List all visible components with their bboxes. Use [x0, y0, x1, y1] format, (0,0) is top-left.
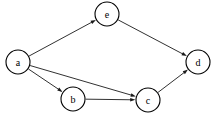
node-b[interactable]: b: [61, 87, 85, 111]
edge-a-to-e[interactable]: [29, 20, 96, 56]
edge-a-to-b-line: [28, 69, 59, 90]
edge-b-to-c-line: [86, 99, 132, 100]
edge-c-to-d-line: [158, 72, 185, 92]
edge-c-to-d[interactable]: [158, 70, 188, 93]
node-d[interactable]: d: [186, 50, 210, 74]
graph-canvas: a b c d e: [0, 0, 216, 124]
node-e[interactable]: e: [95, 2, 119, 26]
edge-b-to-c-arrowhead: [130, 98, 135, 102]
edge-e-to-d-arrowhead: [181, 52, 186, 56]
edge-e-to-d[interactable]: [118, 20, 187, 56]
graph-figure: a b c d e: [0, 0, 216, 124]
edge-a-to-c-arrowhead: [130, 93, 135, 96]
edge-a-to-e-line: [29, 22, 92, 56]
edge-e-to-d-line: [118, 20, 183, 54]
edge-a-to-b-arrowhead: [57, 88, 62, 92]
node-layer: a b c d e: [6, 2, 210, 112]
edge-a-to-b[interactable]: [28, 69, 62, 92]
node-e-label: e: [105, 9, 110, 20]
node-c-label: c: [146, 95, 151, 106]
node-d-label: d: [196, 57, 201, 68]
node-a-label: a: [16, 57, 21, 68]
edge-b-to-c[interactable]: [86, 98, 136, 102]
edge-a-to-e-arrowhead: [90, 20, 95, 24]
node-b-label: b: [71, 94, 76, 105]
edge-layer: [28, 20, 188, 102]
node-c[interactable]: c: [136, 88, 160, 112]
node-a[interactable]: a: [6, 50, 30, 74]
